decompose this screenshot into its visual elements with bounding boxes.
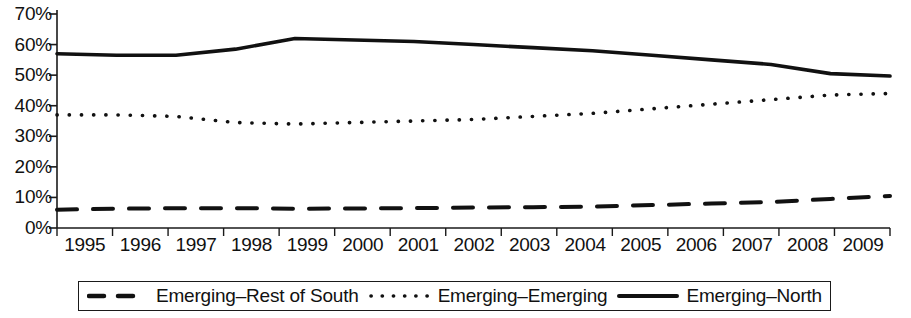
dotted-line-icon — [369, 289, 431, 303]
x-axis-tick-label: 1999 — [279, 234, 335, 262]
y-axis-tick-labels: 70%60%50%40%30%20%10%0% — [0, 0, 52, 250]
series-lines — [57, 38, 890, 209]
x-axis-tick-label: 1998 — [224, 234, 280, 262]
y-axis-tick-label: 70% — [0, 4, 52, 23]
x-axis-tick-label: 2005 — [613, 234, 669, 262]
plot-area: 70%60%50%40%30%20%10%0% — [0, 0, 911, 250]
legend-item[interactable]: Emerging–Emerging — [369, 286, 608, 306]
series-line — [57, 196, 890, 210]
y-axis-tick-label: 10% — [0, 187, 52, 206]
x-axis-tick-label: 2009 — [835, 234, 891, 262]
x-axis-tick-label: 2007 — [724, 234, 780, 262]
axis-lines — [57, 10, 890, 228]
x-axis-tick-label: 2004 — [557, 234, 613, 262]
dashed-line-icon — [87, 289, 149, 303]
series-line — [57, 38, 890, 76]
plot-svg — [0, 0, 911, 250]
y-axis-tick-label: 60% — [0, 35, 52, 54]
x-axis-tick-label: 1997 — [168, 234, 224, 262]
y-axis-tick-label: 50% — [0, 65, 52, 84]
y-axis-tick-label: 30% — [0, 126, 52, 145]
chart-legend: Emerging–Rest of SouthEmerging–EmergingE… — [78, 281, 831, 311]
legend-item[interactable]: Emerging–Rest of South — [87, 286, 359, 306]
y-axis-tick-label: 40% — [0, 96, 52, 115]
x-axis-tick-label: 2000 — [335, 234, 391, 262]
x-axis-tick-label: 2008 — [780, 234, 836, 262]
solid-line-icon — [617, 289, 679, 303]
x-axis-tick-label: 2001 — [391, 234, 447, 262]
x-axis-tick-label: 2006 — [669, 234, 725, 262]
line-chart: 70%60%50%40%30%20%10%0% 1995199619971998… — [0, 0, 911, 318]
legend-item-label: Emerging–North — [686, 286, 822, 306]
x-axis-tick-label: 2002 — [446, 234, 502, 262]
series-line — [57, 93, 890, 124]
legend-item-label: Emerging–Rest of South — [156, 286, 359, 306]
y-axis-tick-label: 20% — [0, 157, 52, 176]
y-axis-tick-label: 0% — [0, 218, 52, 237]
x-axis-tick-label: 2003 — [502, 234, 558, 262]
legend-item[interactable]: Emerging–North — [617, 286, 822, 306]
x-axis-tick-labels: 1995199619971998199920002001200220032004… — [57, 234, 891, 262]
legend-item-label: Emerging–Emerging — [438, 286, 608, 306]
x-axis-tick-label: 1996 — [113, 234, 169, 262]
x-axis-tick-label: 1995 — [57, 234, 113, 262]
